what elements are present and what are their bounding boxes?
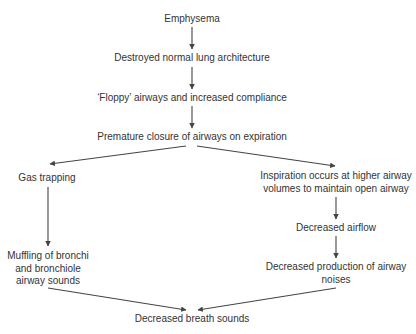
node-label: Premature closure of airways on expirati… [97, 131, 287, 144]
node-label: Decreased breath sounds [135, 313, 250, 326]
node-premature-closure: Premature closure of airways on expirati… [97, 131, 287, 144]
arrow-production-to-breath-sounds [198, 288, 336, 310]
node-muffling: Muffling of bronchi and bronchiole airwa… [7, 250, 89, 288]
node-label: ‘Floppy’ airways and increased complianc… [97, 92, 287, 105]
arrow-muffling-to-breath-sounds [48, 288, 186, 310]
node-label: Decreased airflow [296, 222, 376, 235]
arrow-premature-to-inspiration [197, 146, 335, 166]
node-label: Destroyed normal lung architecture [114, 52, 270, 65]
node-decreased-breath-sounds: Decreased breath sounds [135, 313, 250, 326]
node-label-line-2: and bronchiole [7, 263, 89, 276]
flowchart: Emphysema Destroyed normal lung architec… [0, 0, 416, 334]
node-inspiration: Inspiration occurs at higher airway volu… [260, 170, 412, 195]
node-gas-trapping: Gas trapping [18, 172, 75, 185]
node-floppy-airways: ‘Floppy’ airways and increased complianc… [97, 92, 287, 105]
node-label-line-1: Decreased production of airway [266, 261, 407, 274]
arrow-premature-to-gas-trapping [50, 146, 186, 164]
node-label-line-1: Inspiration occurs at higher airway [260, 170, 412, 183]
node-label-line-2: volumes to maintain open airway [260, 183, 412, 196]
node-label: Emphysema [164, 13, 220, 26]
node-label-line-1: Muffling of bronchi [7, 250, 89, 263]
node-decreased-airflow: Decreased airflow [296, 222, 376, 235]
node-emphysema: Emphysema [164, 13, 220, 26]
node-decreased-production: Decreased production of airway noises [266, 261, 407, 286]
node-destroyed-lung-architecture: Destroyed normal lung architecture [114, 52, 270, 65]
node-label-line-3: airway sounds [7, 275, 89, 288]
node-label-line-2: noises [266, 274, 407, 287]
node-label: Gas trapping [18, 172, 75, 185]
